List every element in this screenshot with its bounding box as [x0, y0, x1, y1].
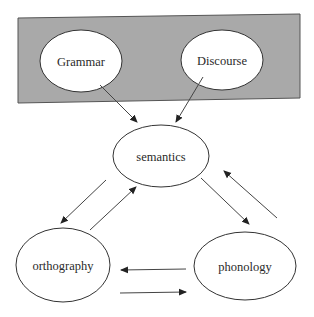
node-orthography-label: orthography [32, 259, 94, 273]
node-grammar: Grammar [40, 30, 122, 92]
node-semantics: semantics [113, 125, 209, 187]
arrow-phonology-to-semantics [224, 171, 277, 218]
arrow-semantics-to-orthography [61, 180, 106, 223]
node-grammar-label: Grammar [57, 55, 106, 69]
node-orthography: orthography [16, 228, 110, 302]
arrow-phonology-to-orthography [121, 269, 186, 270]
node-discourse: Discourse [181, 30, 263, 90]
node-discourse-label: Discourse [197, 54, 247, 68]
arrow-orthography-to-semantics [90, 187, 136, 230]
language-model-diagram: Grammar Discourse semantics orthography … [0, 0, 314, 317]
node-semantics-label: semantics [136, 150, 185, 164]
arrow-semantics-to-phonology [201, 178, 249, 224]
node-phonology: phonology [194, 232, 296, 300]
node-phonology-label: phonology [218, 260, 272, 274]
arrow-orthography-to-phonology [120, 292, 186, 293]
